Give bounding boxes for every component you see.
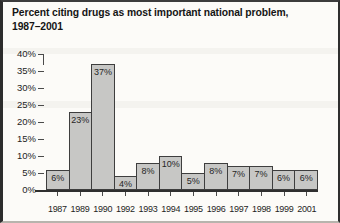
bar-1993: 8% <box>136 163 160 190</box>
y-tick-label: 20% <box>5 116 36 128</box>
bar-1990: 37% <box>91 64 115 190</box>
x-tick-label: 2001 <box>295 204 318 215</box>
bar-1989: 23% <box>69 112 93 190</box>
x-tick-slot <box>46 192 69 196</box>
x-tick-label: 1996 <box>205 204 228 215</box>
bar-value-label: 23% <box>70 113 92 125</box>
bar-value-label: 5% <box>182 174 204 186</box>
bar-2001: 6% <box>294 170 318 190</box>
bar-value-label: 4% <box>115 177 137 189</box>
y-tick-label: 30% <box>5 82 36 94</box>
x-tick-label: 1995 <box>182 204 205 215</box>
x-tick-label: 1999 <box>273 204 296 215</box>
bar-value-label: 6% <box>295 171 317 183</box>
bar-1996: 8% <box>204 163 228 190</box>
bar-1998: 7% <box>249 166 273 190</box>
x-tick-mark <box>170 192 171 196</box>
x-tick-label: 1987 <box>46 204 69 215</box>
chart-title-line1: Percent citing drugs as most important n… <box>12 5 322 19</box>
bar-value-label: 8% <box>137 164 159 176</box>
y-tick-mark <box>38 122 44 123</box>
x-tick-mark <box>125 192 126 196</box>
bar-value-label: 7% <box>228 167 250 179</box>
x-tick-label: 1997 <box>227 204 250 215</box>
x-tick-slot <box>250 192 273 196</box>
x-tick-mark <box>238 192 239 196</box>
bar-1992: 4% <box>114 176 138 190</box>
bar-1995: 5% <box>181 173 205 190</box>
x-tick-mark <box>57 192 58 196</box>
bar-1987: 6% <box>46 170 70 190</box>
figure-frame: Percent citing drugs as most important n… <box>0 0 340 223</box>
y-tick-mark <box>38 139 44 140</box>
y-tick-label: 0% <box>5 184 36 196</box>
y-tick-label: 5% <box>5 167 36 179</box>
bar-1997: 7% <box>227 166 251 190</box>
x-tick-label: 1993 <box>137 204 160 215</box>
bar-1999: 6% <box>272 170 296 190</box>
bar-1994: 10% <box>159 156 183 190</box>
x-tick-slot <box>295 192 318 196</box>
x-tick-slot <box>273 192 296 196</box>
x-tick-label: 1992 <box>114 204 137 215</box>
bar-series: 6%23%37%4%8%10%5%8%7%7%6%6% <box>46 54 318 190</box>
chart-title: Percent citing drugs as most important n… <box>12 5 322 33</box>
x-tick-slot <box>137 192 160 196</box>
x-tick-slot <box>227 192 250 196</box>
bar-value-label: 8% <box>205 164 227 176</box>
y-tick-mark <box>38 88 44 89</box>
x-axis-ticks <box>46 192 318 196</box>
x-tick-slot <box>69 192 92 196</box>
bar-value-label: 6% <box>47 171 69 183</box>
chart-title-line2: 1987–2001 <box>12 19 322 33</box>
x-tick-mark <box>216 192 217 196</box>
x-tick-mark <box>102 192 103 196</box>
x-tick-label: 1994 <box>159 204 182 215</box>
bar-value-label: 37% <box>92 65 114 77</box>
x-tick-mark <box>193 192 194 196</box>
bar-value-label: 7% <box>250 167 272 179</box>
y-tick-mark <box>38 71 44 72</box>
x-tick-mark <box>80 192 81 196</box>
y-tick-label: 35% <box>5 65 36 77</box>
y-tick-mark <box>38 156 44 157</box>
y-tick-mark <box>38 105 44 106</box>
x-tick-label: 1998 <box>250 204 273 215</box>
x-tick-label: 1990 <box>91 204 114 215</box>
x-tick-mark <box>148 192 149 196</box>
y-axis-line <box>43 54 44 65</box>
y-tick-label: 15% <box>5 133 36 145</box>
x-tick-slot <box>159 192 182 196</box>
x-tick-slot <box>182 192 205 196</box>
x-tick-mark <box>261 192 262 196</box>
x-tick-slot <box>91 192 114 196</box>
x-tick-slot <box>114 192 137 196</box>
x-axis-labels: 1987198919901992199319941995199619971998… <box>46 204 318 215</box>
y-tick-label: 25% <box>5 99 36 111</box>
y-tick-label: 40% <box>5 48 36 60</box>
x-tick-mark <box>284 192 285 196</box>
y-tick-mark <box>38 173 44 174</box>
bar-value-label: 6% <box>273 171 295 183</box>
bar-value-label: 10% <box>160 157 182 169</box>
x-tick-slot <box>205 192 228 196</box>
x-tick-mark <box>306 192 307 196</box>
y-tick-label: 10% <box>5 150 36 162</box>
x-tick-label: 1989 <box>69 204 92 215</box>
